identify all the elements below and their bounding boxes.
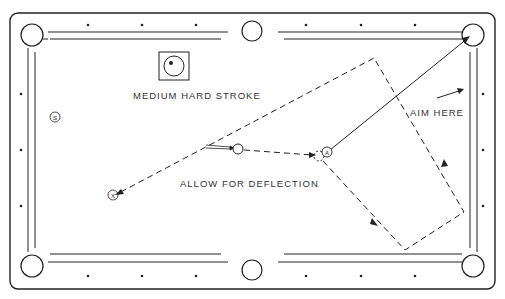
svg-text:X: X — [111, 193, 115, 199]
pocket-top-middle — [242, 21, 262, 41]
cue-ball-english-top-left-icon — [159, 52, 189, 80]
table-rail — [10, 13, 495, 289]
pocket-bottom-middle — [242, 260, 262, 280]
diamond-markers — [20, 24, 485, 278]
aim-label: AIM HERE — [410, 107, 464, 118]
target-mark: X — [108, 190, 118, 200]
cue-ball — [233, 144, 243, 154]
pockets — [21, 21, 484, 280]
svg-text:S: S — [53, 115, 57, 121]
deflection-label: ALLOW FOR DEFLECTION — [180, 178, 319, 189]
stripe-ball: S — [50, 112, 60, 122]
cue-stick — [206, 145, 234, 150]
object-ball: A — [322, 147, 332, 157]
pool-table-diagram: MEDIUM HARD STROKE S X A ALLOW F — [0, 0, 505, 299]
stroke-label: MEDIUM HARD STROKE — [133, 90, 261, 101]
shot-paths — [115, 36, 470, 250]
pocket-bottom-right — [462, 255, 484, 277]
pocket-top-left — [21, 24, 43, 46]
svg-text:A: A — [325, 150, 329, 156]
pocket-bottom-left — [21, 255, 43, 277]
